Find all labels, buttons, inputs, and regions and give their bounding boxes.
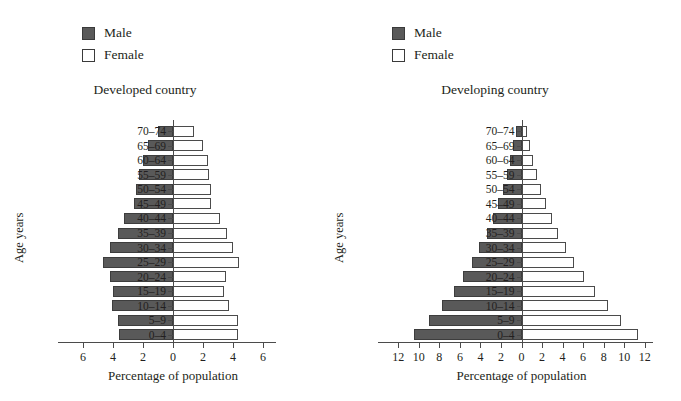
- y-axis-label: 70–74: [486, 126, 515, 138]
- y-axis-tick: [168, 175, 173, 176]
- y-axis-label: 45–49: [137, 199, 166, 211]
- bar-female: [173, 242, 233, 253]
- y-axis-tick: [517, 306, 522, 307]
- x-axis-tick: [203, 343, 204, 348]
- y-axis-label: 0–4: [497, 330, 514, 342]
- legend-item-female: Female: [82, 44, 144, 66]
- x-axis-tick: [604, 343, 605, 348]
- bar-female: [522, 140, 530, 151]
- bar-female: [173, 300, 229, 311]
- bar-female: [522, 286, 596, 297]
- y-axis-tick: [168, 291, 173, 292]
- y-axis-label: 50–54: [486, 184, 515, 196]
- x-axis-tick: [398, 343, 399, 348]
- bar-female: [173, 140, 203, 151]
- y-axis-label: 65–69: [486, 141, 515, 153]
- bar-female: [522, 213, 553, 224]
- bar-female: [173, 286, 224, 297]
- y-axis-tick: [168, 277, 173, 278]
- x-axis-tick: [522, 343, 523, 348]
- y-axis-tick: [517, 320, 522, 321]
- y-axis-tick: [517, 204, 522, 205]
- y-axis-tick: [168, 131, 173, 132]
- y-axis-label: 60–64: [137, 155, 166, 167]
- y-axis-label: 60–64: [486, 155, 515, 167]
- y-axis-tick: [517, 233, 522, 234]
- y-axis-tick: [168, 335, 173, 336]
- legend-label-female: Female: [104, 48, 144, 62]
- y-axis-label: 40–44: [486, 213, 515, 225]
- y-axis-line: [173, 120, 174, 342]
- y-axis-label: 10–14: [486, 301, 515, 313]
- legend-item-female: Female: [392, 44, 454, 66]
- y-axis-tick: [517, 146, 522, 147]
- x-axis-tick: [624, 343, 625, 348]
- bar-female: [173, 169, 209, 180]
- y-axis-label: 35–39: [486, 228, 515, 240]
- chart-title-developed: Developed country: [10, 82, 280, 98]
- y-axis-line: [522, 120, 523, 342]
- bar-female: [173, 271, 226, 282]
- bar-female: [522, 300, 608, 311]
- y-axis-tick: [517, 277, 522, 278]
- x-axis-tick: [173, 343, 174, 348]
- y-axis-title: Age years: [12, 213, 27, 263]
- bar-female: [173, 184, 211, 195]
- bar-female: [173, 257, 239, 268]
- x-axis-tick: [645, 343, 646, 348]
- x-axis-tick-label: 6: [243, 351, 283, 363]
- y-axis-tick: [517, 131, 522, 132]
- y-axis-tick: [168, 306, 173, 307]
- y-axis-label: 20–24: [486, 272, 515, 284]
- x-axis-tick: [113, 343, 114, 348]
- y-axis-label: 65–69: [137, 141, 166, 153]
- y-axis-tick: [517, 175, 522, 176]
- y-axis-label: 55–59: [486, 170, 515, 182]
- bar-female: [173, 198, 211, 209]
- bar-female: [173, 155, 208, 166]
- y-axis-label: 50–54: [137, 184, 166, 196]
- y-axis-label: 45–49: [486, 199, 515, 211]
- y-axis-tick: [517, 291, 522, 292]
- legend-swatch-female-icon: [82, 49, 95, 62]
- x-axis-tick: [563, 343, 564, 348]
- x-axis-tick: [83, 343, 84, 348]
- bar-female: [522, 315, 622, 326]
- y-axis-label: 15–19: [137, 286, 166, 298]
- x-axis-tick-label: 12: [625, 351, 665, 363]
- y-axis-label: 55–59: [137, 170, 166, 182]
- y-axis-label: 30–34: [486, 243, 515, 255]
- legend-label-male: Male: [414, 26, 442, 40]
- x-axis-tick: [143, 343, 144, 348]
- x-axis-title: Percentage of population: [68, 368, 278, 384]
- chart-panel-developing: Male Female Developing country 0–45–910–…: [330, 0, 681, 401]
- y-axis-label: 20–24: [137, 272, 166, 284]
- x-axis-tick: [439, 343, 440, 348]
- legend-developing: Male Female: [392, 22, 454, 66]
- bar-female: [522, 329, 638, 340]
- legend-item-male: Male: [392, 22, 454, 44]
- y-axis-tick: [517, 189, 522, 190]
- x-axis-tick: [233, 343, 234, 348]
- x-axis-tick: [542, 343, 543, 348]
- y-axis-tick: [168, 160, 173, 161]
- legend-swatch-male-icon: [82, 27, 95, 40]
- y-axis-tick: [517, 160, 522, 161]
- bar-female: [522, 198, 547, 209]
- x-axis-tick: [460, 343, 461, 348]
- y-axis-label: 10–14: [137, 301, 166, 313]
- x-axis-tick: [583, 343, 584, 348]
- legend-label-female: Female: [414, 48, 454, 62]
- bar-female: [522, 271, 585, 282]
- y-axis-tick: [517, 248, 522, 249]
- bar-female: [522, 228, 559, 239]
- y-axis-label: 35–39: [137, 228, 166, 240]
- y-axis-tick: [517, 335, 522, 336]
- legend-swatch-female-icon: [392, 49, 405, 62]
- chart-title-developing: Developing country: [350, 82, 640, 98]
- x-axis-tick: [501, 343, 502, 348]
- x-axis-title: Percentage of population: [388, 368, 655, 384]
- y-axis-label: 5–9: [149, 315, 166, 327]
- x-axis-line: [58, 342, 276, 343]
- x-axis-tick: [419, 343, 420, 348]
